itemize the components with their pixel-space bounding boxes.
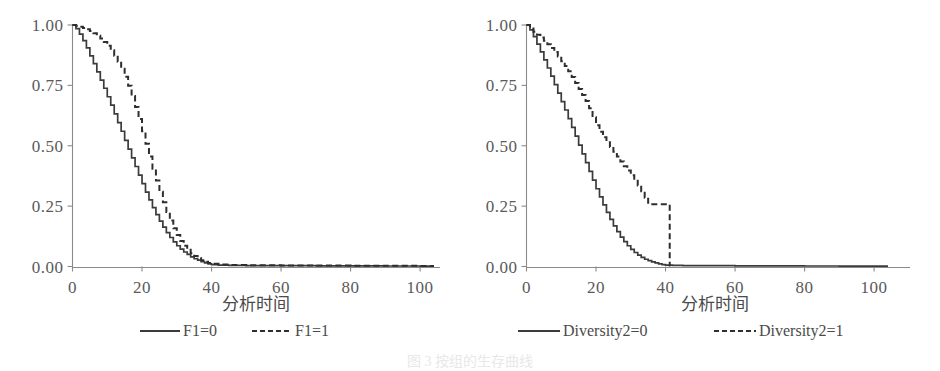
left-y-tick-label: 0.00 <box>32 258 64 277</box>
left-y-ticks: 0.000.250.500.751.00 <box>32 16 73 277</box>
left-x-tick-label: 20 <box>133 278 151 297</box>
left-y-tick-label: 0.50 <box>32 137 64 156</box>
right-x-ticks: 020406080100 <box>522 267 888 297</box>
right-x-tick-label: 60 <box>726 278 744 297</box>
right-x-tick-label: 20 <box>587 278 605 297</box>
right-curve-1 <box>527 25 889 266</box>
left-x-ticks: 020406080100 <box>68 267 434 297</box>
figure-caption: 图 3 按组的生存曲线 <box>0 352 940 371</box>
left-y-tick-label: 0.25 <box>32 197 64 216</box>
right-y-tick-label: 1.00 <box>486 16 518 35</box>
left-legend-label-2[interactable]: F1=1 <box>295 322 329 339</box>
left-curve-2 <box>73 25 435 266</box>
right-y-tick-label: 0.75 <box>486 76 518 95</box>
right-legend-label-1[interactable]: Diversity2=0 <box>563 322 648 340</box>
right-x-axis-title: 分析时间 <box>681 295 749 314</box>
left-x-tick-label: 60 <box>272 278 290 297</box>
panel-left-f1: 0.000.250.500.751.00 020406080100 分析时间 F… <box>0 0 470 371</box>
left-x-tick-label: 0 <box>68 278 77 297</box>
left-x-tick-label: 80 <box>342 278 360 297</box>
left-x-axis-title: 分析时间 <box>222 295 290 314</box>
left-curve-1 <box>73 25 435 266</box>
right-y-tick-label: 0.50 <box>486 137 518 156</box>
left-legend-label-1[interactable]: F1=0 <box>183 322 217 339</box>
right-y-ticks: 0.000.250.500.751.00 <box>486 16 527 277</box>
right-y-tick-label: 0.25 <box>486 197 518 216</box>
panel-right-diversity2: 0.000.250.500.751.00 020406080100 分析时间 D… <box>470 0 940 371</box>
panel-right-svg: 0.000.250.500.751.00 020406080100 分析时间 D… <box>470 0 940 350</box>
left-x-tick-label: 40 <box>203 278 221 297</box>
right-axes <box>527 24 911 268</box>
right-x-tick-label: 40 <box>657 278 675 297</box>
right-x-tick-label: 100 <box>861 278 888 297</box>
right-y-tick-label: 0.00 <box>486 258 518 277</box>
survival-curves-figure: 0.000.250.500.751.00 020406080100 分析时间 F… <box>0 0 940 371</box>
left-x-tick-label: 100 <box>407 278 434 297</box>
right-curves <box>527 25 889 267</box>
right-legend-label-2[interactable]: Diversity2=1 <box>759 322 844 340</box>
left-y-tick-label: 1.00 <box>32 16 64 35</box>
panel-left-svg: 0.000.250.500.751.00 020406080100 分析时间 F… <box>0 0 470 350</box>
right-x-tick-label: 0 <box>522 278 531 297</box>
left-legend: F1=0F1=1 <box>140 322 329 339</box>
left-curves <box>73 25 435 266</box>
right-legend: Diversity2=0Diversity2=1 <box>518 322 844 340</box>
right-x-tick-label: 80 <box>796 278 814 297</box>
left-y-tick-label: 0.75 <box>32 76 64 95</box>
